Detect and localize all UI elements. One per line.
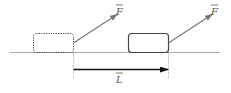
initial-box-position xyxy=(34,34,74,53)
displacement-label: L xyxy=(115,73,123,85)
svg-text:F: F xyxy=(115,6,124,17)
svg-text:F: F xyxy=(210,6,219,17)
work-diagram: F F L xyxy=(0,0,231,93)
force-label-initial: F xyxy=(115,5,124,17)
svg-text:L: L xyxy=(115,74,123,85)
force-arrow-initial xyxy=(74,15,118,44)
force-label-final: F xyxy=(210,5,219,17)
force-arrow-final xyxy=(169,15,213,44)
final-box-position xyxy=(129,34,169,53)
